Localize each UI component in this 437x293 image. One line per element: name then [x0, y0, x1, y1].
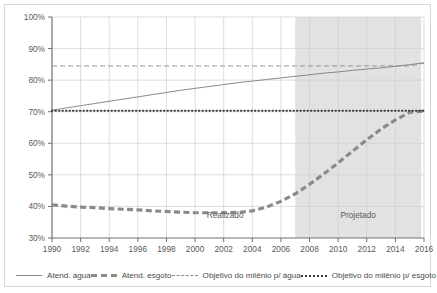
- x-tick-label: 2006: [272, 244, 291, 254]
- thin-dashed-line-swatch: [172, 271, 198, 279]
- y-tick-label: 70%: [28, 107, 45, 117]
- x-tick-label: 1996: [129, 244, 148, 254]
- x-tick-label: 2012: [358, 244, 377, 254]
- chart-legend: Atend. água Atend. esgoto Objetivo do mi…: [16, 266, 424, 284]
- legend-item-objetivo-agua: Objetivo do milênio p/ água: [172, 271, 301, 280]
- legend-label: Objetivo do milênio p/ água: [203, 271, 301, 280]
- solid-line-swatch: [16, 271, 42, 279]
- chart-area: 30%40%50%60%70%80%90%100%199019921994199…: [0, 0, 437, 293]
- y-tick-label: 30%: [28, 233, 45, 243]
- x-tick-label: 2014: [386, 244, 405, 254]
- legend-item-atend-agua: Atend. água: [16, 271, 91, 280]
- legend-label: Atend. esgoto: [122, 271, 172, 280]
- y-tick-label: 100%: [24, 12, 46, 22]
- y-tick-label: 50%: [28, 170, 45, 180]
- thick-dashed-line-swatch: [91, 271, 117, 279]
- y-tick-label: 80%: [28, 75, 45, 85]
- x-tick-label: 2000: [186, 244, 205, 254]
- y-tick-label: 60%: [28, 138, 45, 148]
- y-tick-label: 40%: [28, 201, 45, 211]
- chart-annotation: Projetado: [340, 210, 376, 220]
- x-tick-label: 2004: [243, 244, 262, 254]
- x-tick-label: 1994: [100, 244, 119, 254]
- dotted-line-swatch: [301, 271, 327, 279]
- x-tick-label: 2010: [329, 244, 348, 254]
- x-tick-label: 1998: [157, 244, 176, 254]
- x-tick-label: 2016: [415, 244, 434, 254]
- legend-item-atend-esgoto: Atend. esgoto: [91, 271, 172, 280]
- x-tick-label: 2002: [214, 244, 233, 254]
- projected-shaded-region: [295, 17, 421, 238]
- line-chart-svg: 30%40%50%60%70%80%90%100%199019921994199…: [0, 0, 437, 293]
- y-tick-label: 90%: [28, 44, 45, 54]
- chart-annotation: Realizado: [207, 210, 244, 220]
- x-tick-label: 2008: [300, 244, 319, 254]
- x-tick-label: 1992: [71, 244, 90, 254]
- legend-label: Atend. água: [47, 271, 91, 280]
- legend-label: Objetivo do milênio p/ esgoto: [332, 271, 436, 280]
- x-tick-label: 1990: [43, 244, 62, 254]
- legend-item-objetivo-esgoto: Objetivo do milênio p/ esgoto: [301, 271, 436, 280]
